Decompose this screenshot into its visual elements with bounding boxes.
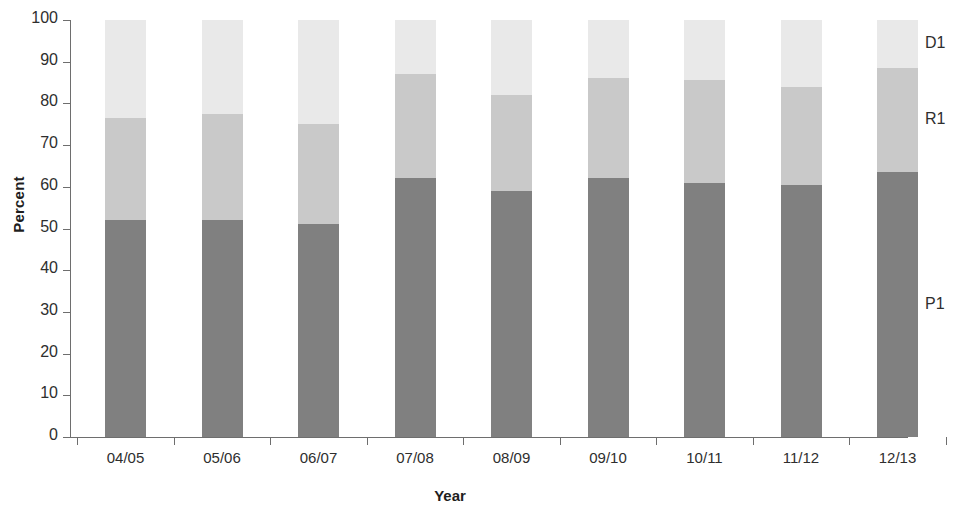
- y-tick-mark: [63, 270, 70, 271]
- bar-11-12[interactable]: [781, 20, 822, 437]
- bar-segment-P1[interactable]: [588, 178, 629, 437]
- bar-segment-D1[interactable]: [684, 20, 725, 80]
- y-tick-mark: [63, 229, 70, 230]
- y-tick-label: 70: [40, 134, 58, 152]
- y-tick-mark: [63, 187, 70, 188]
- x-tick-mark: [174, 437, 175, 445]
- y-tick-mark: [63, 62, 70, 63]
- y-tick-mark: [63, 145, 70, 146]
- bar-segment-D1[interactable]: [395, 20, 436, 74]
- bar-12-13[interactable]: [877, 20, 918, 437]
- bar-segment-D1[interactable]: [781, 20, 822, 87]
- x-tick-label: 07/08: [370, 449, 460, 466]
- y-tick-mark: [63, 312, 70, 313]
- bar-segment-P1[interactable]: [202, 220, 243, 437]
- bar-segment-R1[interactable]: [298, 124, 339, 224]
- y-tick-mark: [63, 395, 70, 396]
- bar-segment-D1[interactable]: [877, 20, 918, 68]
- y-tick-label: 90: [40, 51, 58, 69]
- stacked-bar-chart: Percent Year 0102030405060708090100 04/0…: [0, 0, 961, 517]
- bar-segment-D1[interactable]: [105, 20, 146, 118]
- x-tick-mark: [270, 437, 271, 445]
- bar-segment-R1[interactable]: [202, 114, 243, 220]
- bar-segment-R1[interactable]: [684, 80, 725, 182]
- y-tick-label: 20: [40, 343, 58, 361]
- x-tick-mark: [656, 437, 657, 445]
- x-tick-mark: [849, 437, 850, 445]
- bar-segment-P1[interactable]: [877, 172, 918, 437]
- x-tick-mark: [753, 437, 754, 445]
- x-tick-label: 09/10: [563, 449, 653, 466]
- bar-segment-P1[interactable]: [781, 185, 822, 437]
- y-axis-line: [70, 20, 71, 438]
- bar-segment-R1[interactable]: [491, 95, 532, 191]
- legend-label-R1: R1: [925, 110, 945, 128]
- x-tick-label: 05/06: [177, 449, 267, 466]
- x-axis-line: [70, 437, 908, 438]
- bar-segment-R1[interactable]: [395, 74, 436, 178]
- bar-segment-P1[interactable]: [298, 224, 339, 437]
- y-tick-mark: [63, 437, 70, 438]
- y-tick-label: 60: [40, 176, 58, 194]
- bar-segment-R1[interactable]: [105, 118, 146, 220]
- x-tick-label: 04/05: [81, 449, 171, 466]
- x-tick-mark: [463, 437, 464, 445]
- y-tick-mark: [63, 354, 70, 355]
- y-axis-title: Percent: [10, 165, 27, 245]
- y-tick-mark: [63, 103, 70, 104]
- y-tick-label: 30: [40, 301, 58, 319]
- x-tick-label: 10/11: [660, 449, 750, 466]
- bar-segment-P1[interactable]: [491, 191, 532, 437]
- y-tick-label: 80: [40, 92, 58, 110]
- bar-06-07[interactable]: [298, 20, 339, 437]
- bar-09-10[interactable]: [588, 20, 629, 437]
- legend-label-D1: D1: [925, 34, 945, 52]
- bar-segment-P1[interactable]: [684, 183, 725, 437]
- x-axis-title: Year: [0, 487, 900, 504]
- bar-segment-D1[interactable]: [298, 20, 339, 124]
- bar-05-06[interactable]: [202, 20, 243, 437]
- bar-08-09[interactable]: [491, 20, 532, 437]
- legend-label-P1: P1: [925, 295, 945, 313]
- y-tick-label: 50: [40, 218, 58, 236]
- bar-segment-R1[interactable]: [877, 68, 918, 172]
- x-tick-mark: [560, 437, 561, 445]
- bar-segment-D1[interactable]: [491, 20, 532, 95]
- y-tick-label: 100: [31, 9, 58, 27]
- bar-segment-D1[interactable]: [202, 20, 243, 114]
- bar-07-08[interactable]: [395, 20, 436, 437]
- x-tick-label: 08/09: [467, 449, 557, 466]
- y-tick-label: 0: [49, 426, 58, 444]
- bar-04-05[interactable]: [105, 20, 146, 437]
- y-tick-label: 40: [40, 259, 58, 277]
- x-tick-label: 12/13: [853, 449, 943, 466]
- bar-segment-D1[interactable]: [588, 20, 629, 78]
- y-tick-mark: [63, 20, 70, 21]
- x-tick-mark: [367, 437, 368, 445]
- y-tick-label: 10: [40, 384, 58, 402]
- bar-segment-P1[interactable]: [395, 178, 436, 437]
- x-tick-label: 11/12: [756, 449, 846, 466]
- bar-10-11[interactable]: [684, 20, 725, 437]
- x-tick-mark: [77, 437, 78, 445]
- x-tick-mark: [946, 437, 947, 445]
- x-tick-label: 06/07: [274, 449, 364, 466]
- bar-segment-R1[interactable]: [588, 78, 629, 178]
- bar-segment-P1[interactable]: [105, 220, 146, 437]
- bar-segment-R1[interactable]: [781, 87, 822, 185]
